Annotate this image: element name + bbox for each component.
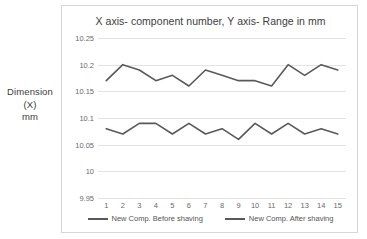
- gridline: [98, 198, 346, 199]
- legend-line-icon: [88, 218, 108, 220]
- chart-legend: New Comp. Before shavingNew Comp. After …: [62, 214, 359, 223]
- x-tick-label: 2: [121, 201, 125, 210]
- x-tick-label: 15: [334, 201, 342, 210]
- y-axis-title-line-1: Dimension (X): [2, 86, 58, 111]
- x-tick-label: 6: [187, 201, 191, 210]
- y-tick-label: 10.2: [79, 60, 94, 69]
- y-tick-label: 10.15: [75, 87, 94, 96]
- series-lines: [98, 38, 346, 198]
- y-tick-label: 10.25: [75, 34, 94, 43]
- legend-entry[interactable]: New Comp. Before shaving: [88, 214, 203, 223]
- y-tick-label: 10: [86, 167, 94, 176]
- x-tick-label: 9: [236, 201, 240, 210]
- x-tick-label: 3: [137, 201, 141, 210]
- x-tick-label: 1: [104, 201, 108, 210]
- y-tick-label: 9.95: [79, 194, 94, 203]
- x-tick-label: 8: [220, 201, 224, 210]
- x-tick-label: 7: [203, 201, 207, 210]
- chart-frame: X axis- component number, Y axis- Range …: [61, 5, 358, 233]
- legend-label: New Comp. Before shaving: [112, 214, 203, 223]
- legend-entry[interactable]: New Comp. After shaving: [225, 214, 334, 223]
- x-tick-label: 10: [251, 201, 259, 210]
- x-tick-label: 14: [317, 201, 325, 210]
- y-tick-label: 10.1: [79, 114, 94, 123]
- y-axis-title-line-2: mm: [2, 111, 58, 124]
- chart-title: X axis- component number, Y axis- Range …: [62, 15, 359, 27]
- y-axis-title: Dimension (X) mm: [2, 86, 58, 124]
- x-tick-label: 5: [170, 201, 174, 210]
- x-tick-label: 4: [154, 201, 158, 210]
- legend-label: New Comp. After shaving: [249, 214, 334, 223]
- y-tick-label: 10.05: [75, 140, 94, 149]
- x-tick-label: 12: [284, 201, 292, 210]
- x-tick-label: 11: [268, 201, 276, 210]
- x-tick-label: 13: [300, 201, 308, 210]
- plot-area: 9.951010.0510.110.1510.210.25 1234567891…: [98, 38, 346, 198]
- chart-figure: Dimension (X) mm X axis- component numbe…: [0, 0, 367, 239]
- series-line-1: [106, 65, 337, 86]
- series-line-2: [106, 123, 337, 139]
- legend-line-icon: [225, 218, 245, 220]
